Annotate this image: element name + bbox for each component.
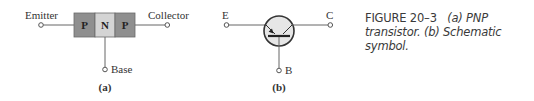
sublabel-a: (a) [99, 81, 112, 94]
base-label: Base [111, 63, 133, 75]
c-terminal-icon [328, 23, 333, 28]
base-terminal-icon [103, 67, 108, 72]
caption-line-1: FIGURE 20–3 (a) PNP [365, 11, 534, 25]
caption-line-2: transistor. (b) Schematic [365, 25, 534, 39]
figure-caption: FIGURE 20–3 (a) PNP transistor. (b) Sche… [365, 11, 534, 53]
b-terminal-icon [277, 68, 282, 73]
b-label: B [285, 64, 292, 76]
collector-label: Collector [148, 9, 189, 21]
e-label: E [222, 9, 229, 21]
emitter-terminal-icon [39, 23, 44, 28]
pnp-block-diagram: Emitter P N P Collector Base (a) [25, 9, 189, 94]
figure-number: FIGURE 20–3 [365, 11, 437, 25]
region-label-p2: P [122, 19, 129, 31]
sublabel-b: (b) [272, 81, 286, 94]
collector-terminal-icon [165, 23, 170, 28]
region-label-p1: P [81, 19, 88, 31]
pnp-schematic-symbol: E C B (b) [222, 9, 333, 94]
e-terminal-icon [224, 23, 229, 28]
caption-text-1: (a) PNP [447, 11, 488, 25]
c-label: C [326, 9, 333, 21]
region-label-n: N [101, 19, 109, 31]
emitter-label: Emitter [25, 9, 58, 21]
caption-line-3: symbol. [365, 39, 534, 53]
